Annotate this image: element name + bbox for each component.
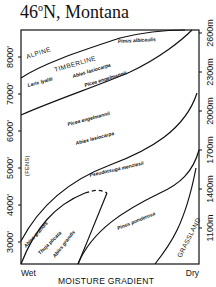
x-axis-dry-label: Dry bbox=[186, 268, 200, 278]
left-axis-labels: 8000' 7000' 6000' 5000' 4000' 3000' bbox=[5, 46, 15, 253]
tick-1700m: 1700m bbox=[205, 136, 215, 164]
tick-2300m: 2300m bbox=[205, 58, 215, 86]
x-axis-wet-label: Wet bbox=[21, 268, 37, 278]
tick-6000ft: 6000' bbox=[5, 120, 15, 142]
x-axis-title: MOISTURE GRADIENT bbox=[58, 276, 154, 286]
zone-fens: (FENS) bbox=[24, 155, 30, 176]
vegetation-zone-diagram: 8000' 7000' 6000' 5000' 4000' 3000' 2600… bbox=[0, 0, 216, 287]
tick-3000ft: 3000' bbox=[5, 231, 15, 253]
thuja-upper-boundary-dashed bbox=[85, 190, 107, 193]
right-axis-labels: 2600m 2300m 2000m 1700m 1400m 1100m bbox=[205, 19, 215, 241]
tick-4000ft: 4000' bbox=[5, 194, 15, 216]
zone-alpine: ALPINE bbox=[25, 45, 52, 60]
species-pinus-ponderosa: Pinus ponderosa bbox=[116, 210, 156, 231]
grassland-boundary bbox=[155, 168, 196, 264]
zone-grassland: GRASSLAND bbox=[176, 216, 202, 258]
abies-grandis-dry-boundary bbox=[78, 193, 107, 264]
tick-8000ft: 8000' bbox=[5, 46, 15, 68]
tick-7000ft: 7000' bbox=[5, 83, 15, 105]
tick-5000ft: 5000' bbox=[5, 157, 15, 179]
species-pinus-albicaulis: Pinus albicaulis bbox=[118, 36, 156, 44]
tick-1100m: 1100m bbox=[205, 215, 215, 242]
tick-1400m: 1400m bbox=[205, 175, 215, 203]
species-larix-lyallii: Larix lyallii bbox=[27, 75, 54, 88]
tick-2600m: 2600m bbox=[205, 19, 215, 47]
species-picea-engelmannii-mid: Picea engelmannii bbox=[67, 110, 111, 127]
species-abies-lasiocarpa-mid: Abies lasiocarpa bbox=[74, 130, 115, 146]
tick-2000m: 2000m bbox=[205, 97, 215, 125]
